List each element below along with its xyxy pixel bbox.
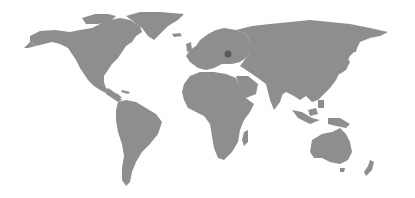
- continent-europe: [186, 28, 250, 70]
- continent-south-america: [116, 100, 162, 186]
- continent-asia: [236, 20, 388, 102]
- continent-australia: [310, 128, 352, 164]
- new-zealand: [364, 160, 374, 176]
- new-guinea: [328, 118, 350, 128]
- madagascar: [242, 130, 248, 146]
- highlight-marker[interactable]: [225, 51, 232, 58]
- india: [266, 84, 284, 110]
- world-map: World Map: [0, 0, 415, 198]
- world-map-svg: [0, 0, 415, 198]
- central-america: [106, 88, 122, 102]
- continent-north-america: [30, 18, 142, 98]
